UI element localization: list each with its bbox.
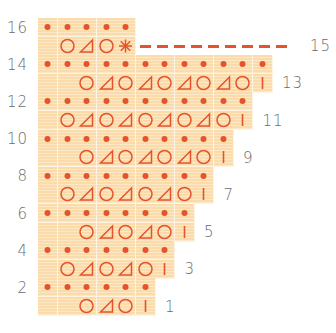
yarn-over-icon bbox=[136, 260, 155, 278]
chart-cell bbox=[77, 223, 97, 242]
chart-cell bbox=[97, 55, 117, 74]
dot-icon bbox=[155, 241, 174, 259]
row-label-6: 6 bbox=[0, 205, 28, 223]
dashed-leader bbox=[225, 45, 236, 48]
chart-cell bbox=[194, 111, 214, 130]
yarn-over-icon bbox=[77, 223, 96, 241]
chart-cell bbox=[116, 74, 136, 93]
yarn-over-icon bbox=[58, 185, 77, 203]
dot-icon bbox=[155, 92, 174, 110]
chart-cell bbox=[38, 130, 58, 149]
chart-cell bbox=[253, 74, 273, 93]
chart-cell bbox=[116, 37, 136, 56]
dot-icon bbox=[77, 18, 96, 36]
chart-cell bbox=[233, 74, 253, 93]
chart-cell bbox=[58, 204, 78, 223]
chart-cell bbox=[38, 111, 58, 130]
chart-cell bbox=[136, 74, 156, 93]
chart-cell bbox=[97, 185, 117, 204]
row-label-16: 16 bbox=[0, 19, 28, 37]
chart-cell bbox=[97, 167, 117, 186]
dashed-leader bbox=[276, 45, 287, 48]
chart-cell bbox=[38, 74, 58, 93]
chart-cell bbox=[38, 55, 58, 74]
row-label-13: 13 bbox=[282, 74, 303, 92]
dot-icon bbox=[58, 130, 77, 148]
dot-icon bbox=[175, 92, 194, 110]
yarn-over-icon bbox=[136, 111, 155, 129]
knitting-chart: 16151413121110987654321 bbox=[0, 0, 336, 333]
dashed-leader bbox=[191, 45, 202, 48]
knit-bar-icon bbox=[253, 74, 272, 92]
dot-icon bbox=[58, 241, 77, 259]
chart-cell bbox=[175, 92, 195, 111]
dot-icon bbox=[233, 55, 252, 73]
dot-icon bbox=[175, 204, 194, 222]
chart-cell bbox=[116, 130, 136, 149]
dot-icon bbox=[38, 92, 57, 110]
chart-cell bbox=[136, 260, 156, 279]
dashed-leader bbox=[157, 45, 168, 48]
yarn-over-icon bbox=[97, 111, 116, 129]
chart-cell bbox=[38, 223, 58, 242]
chart-cell bbox=[116, 185, 136, 204]
chart-cell bbox=[97, 297, 117, 316]
row-label-4: 4 bbox=[0, 242, 28, 260]
decrease-icon bbox=[175, 148, 194, 166]
yarn-over-icon bbox=[214, 111, 233, 129]
chart-cell bbox=[116, 18, 136, 37]
chart-cell bbox=[194, 185, 214, 204]
chart-cell bbox=[77, 185, 97, 204]
yarn-over-icon bbox=[155, 74, 174, 92]
decrease-icon bbox=[136, 148, 155, 166]
chart-cell bbox=[116, 204, 136, 223]
decrease-icon bbox=[175, 74, 194, 92]
dot-icon bbox=[58, 278, 77, 296]
row-label-2: 2 bbox=[0, 279, 28, 297]
chart-cell bbox=[214, 92, 234, 111]
chart-cell bbox=[214, 130, 234, 149]
dot-icon bbox=[38, 18, 57, 36]
decrease-icon bbox=[77, 185, 96, 203]
knit-bar-icon bbox=[194, 185, 213, 203]
dot-icon bbox=[38, 278, 57, 296]
chart-cell bbox=[58, 37, 78, 56]
chart-cell bbox=[116, 111, 136, 130]
chart-cell bbox=[97, 130, 117, 149]
yarn-over-icon bbox=[136, 185, 155, 203]
dot-icon bbox=[175, 55, 194, 73]
chart-cell bbox=[58, 148, 78, 167]
dot-icon bbox=[194, 130, 213, 148]
chart-cell bbox=[38, 92, 58, 111]
yarn-over-icon bbox=[97, 37, 116, 55]
chart-cell bbox=[77, 167, 97, 186]
row-label-8: 8 bbox=[0, 167, 28, 185]
chart-cell bbox=[58, 278, 78, 297]
dot-icon bbox=[155, 130, 174, 148]
chart-cell bbox=[136, 204, 156, 223]
dot-icon bbox=[116, 92, 135, 110]
chart-cell bbox=[77, 92, 97, 111]
dot-icon bbox=[214, 92, 233, 110]
chart-cell bbox=[58, 223, 78, 242]
dot-icon bbox=[214, 130, 233, 148]
dot-icon bbox=[58, 55, 77, 73]
chart-cell bbox=[77, 130, 97, 149]
yarn-over-icon bbox=[58, 111, 77, 129]
chart-cell bbox=[136, 223, 156, 242]
dot-icon bbox=[175, 130, 194, 148]
decrease-icon bbox=[214, 74, 233, 92]
dot-icon bbox=[38, 167, 57, 185]
dot-icon bbox=[58, 18, 77, 36]
dot-icon bbox=[155, 204, 174, 222]
chart-cell bbox=[97, 74, 117, 93]
chart-cell bbox=[58, 74, 78, 93]
chart-cell bbox=[214, 148, 234, 167]
chart-cell bbox=[136, 111, 156, 130]
dot-icon bbox=[38, 55, 57, 73]
chart-cell bbox=[155, 92, 175, 111]
dot-icon bbox=[116, 18, 135, 36]
chart-cell bbox=[38, 18, 58, 37]
chart-cell bbox=[155, 241, 175, 260]
dot-icon bbox=[194, 55, 213, 73]
